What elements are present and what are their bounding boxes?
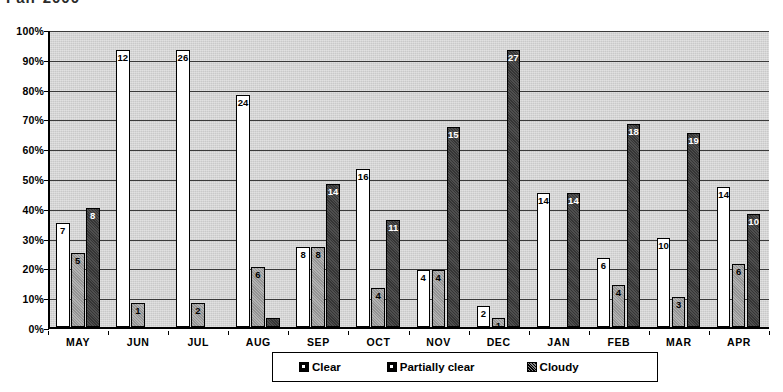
x-tick-label-feb: FEB [607,336,630,348]
x-tick-label-oct: OCT [366,336,390,348]
bar-jan-clear: 14 [537,193,551,327]
bar-aug-clear: 24 [236,95,250,327]
bar-value-label: 26 [178,53,189,63]
y-tick-label: 100% [16,25,44,37]
bar-nov-partial: 4 [432,270,446,327]
bar-aug-cloudy [266,318,280,327]
bar-value-label: 2 [481,309,486,319]
bar-value-label: 4 [436,273,441,283]
bar-jan-cloudy: 14 [567,193,581,327]
bar-nov-clear: 4 [417,270,431,327]
x-tick-mark [228,331,229,335]
x-tick-label-jul: JUL [187,336,209,348]
bar-dec-clear: 2 [477,306,491,327]
legend-swatch-partially-clear-icon [387,362,397,372]
bar-value-label: 10 [658,241,669,251]
x-tick-label-dec: DEC [487,336,511,348]
x-tick-mark [409,331,410,335]
y-tick-label: 80% [22,85,44,97]
bar-feb-clear: 6 [597,258,611,327]
bar-value-label: 11 [388,223,398,233]
bar-value-label: 24 [238,98,249,108]
bar-value-label: 19 [688,136,699,146]
bar-value-label: 16 [358,172,369,182]
x-tick-mark [348,331,349,335]
x-tick-label-nov: NOV [426,336,451,348]
x-tick-mark [709,331,710,335]
bar-value-label: 1 [135,306,140,316]
bar-value-label: 8 [315,250,320,260]
x-tick-label-apr: APR [727,336,751,348]
bar-value-label: 27 [508,53,519,63]
legend-item-partially-clear[interactable]: Partially clear [387,361,475,373]
bar-value-label: 10 [748,217,759,227]
bar-sep-cloudy: 14 [326,184,340,327]
bar-value-label: 15 [448,130,459,140]
bar-jun-clear: 12 [116,50,130,327]
bar-value-label: 14 [538,196,549,206]
bar-value-label: 14 [328,187,339,197]
x-tick-label-mar: MAR [666,336,692,348]
bar-value-label: 8 [90,211,95,221]
bar-apr-partial: 6 [732,264,746,327]
bar-value-label: 4 [421,273,426,283]
x-tick-label-jan: JAN [547,336,570,348]
y-tick-label: 70% [22,114,44,126]
x-tick-mark [108,331,109,335]
bar-apr-cloudy: 10 [747,214,761,327]
bar-value-label: 6 [255,270,260,280]
bar-value-label: 14 [718,190,729,200]
bar-dec-partial: 1 [492,318,506,327]
x-tick-mark [529,331,530,335]
bar-sep-partial: 8 [311,247,325,327]
legend-label-cloudy: Cloudy [540,361,579,373]
y-tick-mark [44,329,49,330]
y-tick-label: 90% [22,55,44,67]
bar-value-label: 1 [496,321,501,331]
y-tick-label: 50% [22,174,44,186]
x-tick-mark [288,331,289,335]
y-tick-label: 10% [22,293,44,305]
bar-jul-clear: 26 [176,50,190,327]
bar-may-partial: 5 [71,253,85,328]
bar-may-cloudy: 8 [86,208,100,327]
legend-item-cloudy[interactable]: Cloudy [527,361,579,373]
x-tick-label-aug: AUG [246,336,271,348]
bar-jul-partial: 2 [191,303,205,327]
bars-layer: 7581212622468814164114415212714146418103… [50,31,769,327]
bar-value-label: 5 [75,256,80,266]
bar-may-clear: 7 [56,223,70,327]
bar-value-label: 7 [60,226,65,236]
bar-mar-clear: 10 [657,238,671,327]
bar-value-label: 4 [376,291,381,301]
bar-jun-partial: 1 [131,303,145,327]
legend-swatch-clear-icon [299,362,309,372]
bar-oct-partial: 4 [371,288,385,327]
y-tick-label: 20% [22,263,44,275]
x-tick-mark [168,331,169,335]
x-tick-mark [649,331,650,335]
bar-value-label: 14 [568,196,579,206]
bar-value-label: 8 [300,250,305,260]
bar-mar-partial: 3 [672,297,686,327]
x-tick-mark [769,331,770,335]
y-tick-label: 30% [22,234,44,246]
x-tick-mark [48,331,49,335]
bar-oct-clear: 16 [356,169,370,327]
x-tick-label-may: MAY [66,336,90,348]
plot-area: 7581212622468814164114415212714146418103… [48,31,769,329]
bar-value-label: 6 [601,261,606,271]
bar-value-label: 12 [118,53,129,63]
legend-swatch-cloudy-icon [527,362,537,372]
x-axis: MAYJUNJULAUGSEPOCTNOVDECJANFEBMARAPR [48,331,769,353]
legend-item-clear[interactable]: Clear [299,361,341,373]
y-tick-label: 60% [22,144,44,156]
y-axis: 0%10%20%30%40%50%60%70%80%90%100% [0,31,44,329]
bar-sep-clear: 8 [296,247,310,327]
legend-label-clear: Clear [312,361,341,373]
bar-oct-cloudy: 11 [386,220,400,327]
bar-value-label: 18 [628,127,639,137]
bar-value-label: 3 [676,300,681,310]
bar-value-label: 2 [195,306,200,316]
legend-label-partially-clear: Partially clear [400,361,475,373]
